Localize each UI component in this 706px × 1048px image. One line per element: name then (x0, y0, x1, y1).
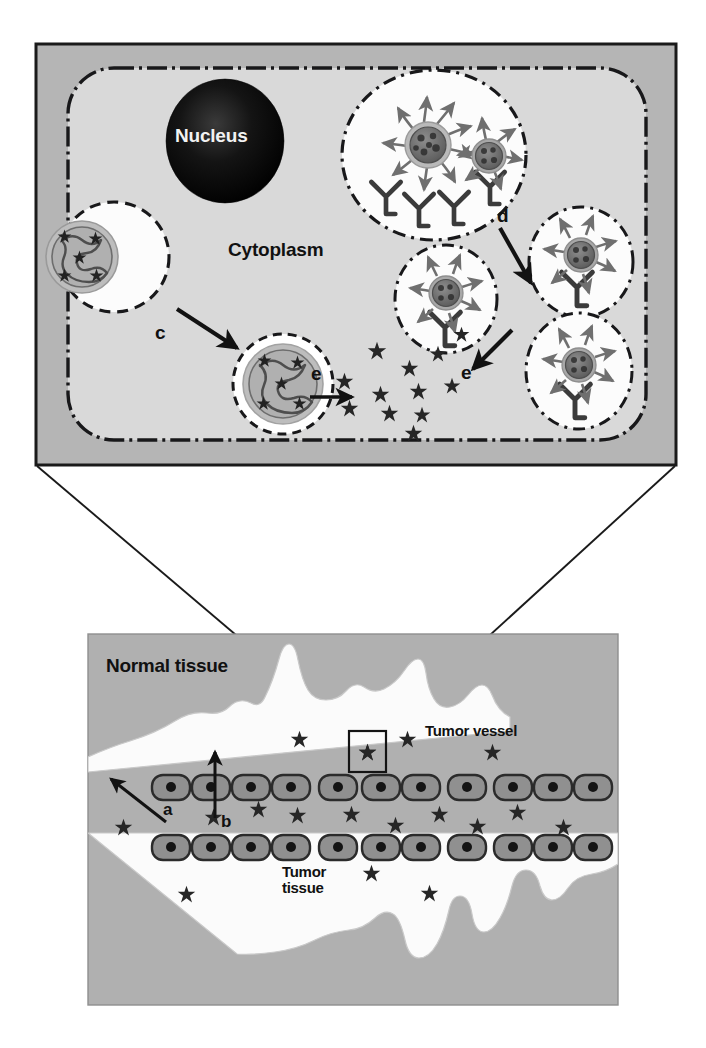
nucleus-label: Nucleus (175, 126, 248, 146)
tumor-tissue-label: Tumor tissue (282, 864, 326, 896)
endothelial-row-upper (152, 775, 612, 800)
step-label-e2: e (461, 362, 472, 384)
endosome-right-upper (529, 207, 633, 317)
diagram-svg (0, 0, 706, 1048)
endothelial-row-lower (152, 835, 612, 860)
cell-panel (36, 44, 676, 465)
tumor-tissue-label-line2: tissue (282, 879, 324, 896)
cytoplasm-label: Cytoplasm (228, 240, 323, 260)
endosome-right-lower (526, 313, 632, 429)
tumor-vessel-label: Tumor vessel (425, 723, 517, 739)
step-label-a: a (163, 800, 172, 820)
step-label-e1: e (311, 363, 322, 385)
tumor-tissue-label-line1: Tumor (282, 863, 326, 880)
step-label-b: b (221, 812, 231, 832)
figure-canvas: Nucleus Cytoplasm c d e e Normal tissue … (0, 0, 706, 1048)
nanoparticle-in-vesicle-left (46, 221, 118, 293)
step-label-c: c (155, 322, 166, 344)
normal-tissue-label: Normal tissue (106, 656, 228, 676)
endosome-middle (395, 245, 497, 353)
step-label-d: d (497, 205, 509, 227)
